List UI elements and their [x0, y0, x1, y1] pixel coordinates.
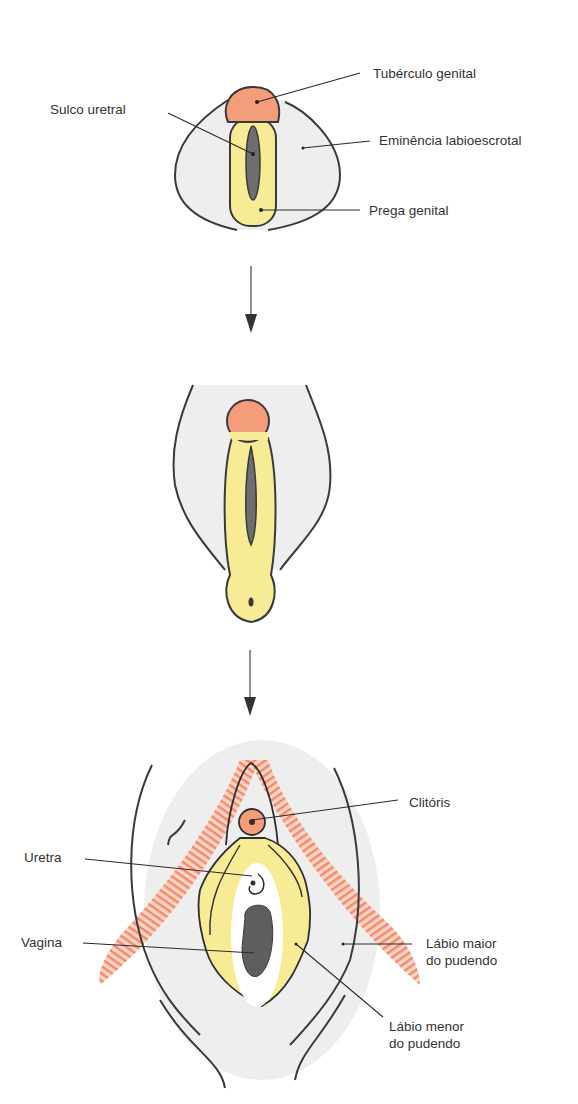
label-labio-menor-2: do pudendo — [389, 1036, 460, 1051]
genital-tubercle — [226, 87, 279, 122]
label-labio-maior-2: do pudendo — [426, 953, 497, 968]
label-prega-genital: Prega genital — [369, 203, 449, 218]
label-tuberculo-genital: Tubérculo genital — [373, 66, 476, 81]
label-uretra: Uretra — [24, 850, 62, 865]
label-clitoris: Clitóris — [409, 795, 451, 810]
stage-3-female-adult: Clitóris Uretra Vagina Lábio maior do pu… — [21, 740, 497, 1088]
urethral-groove — [246, 126, 260, 200]
diagram-canvas: Tubérculo genital Sulco uretral Eminênci… — [0, 0, 578, 1104]
urethral-opening-2 — [249, 598, 254, 607]
label-eminencia-labioescrotal: Eminência labioescrotal — [379, 133, 522, 148]
label-sulco-uretral: Sulco uretral — [50, 102, 126, 117]
label-labio-menor-1: Lábio menor — [389, 1019, 465, 1034]
arrow-2-icon — [244, 650, 256, 716]
label-vagina: Vagina — [21, 935, 63, 950]
label-labio-maior-1: Lábio maior — [426, 936, 497, 951]
stage-1-indifferent: Tubérculo genital Sulco uretral Eminênci… — [50, 66, 522, 230]
stage-2-intermediate — [174, 385, 331, 622]
arrow-1-icon — [245, 266, 257, 333]
